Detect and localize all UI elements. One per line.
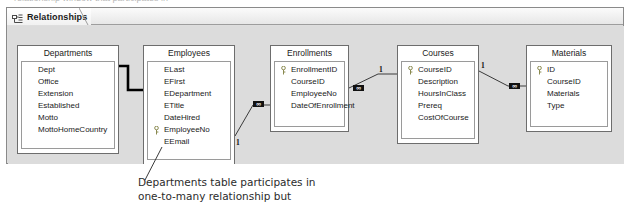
field-label: MottoHomeCountry bbox=[38, 125, 107, 134]
connector-employees-enrollments bbox=[235, 105, 270, 136]
field-label: Materials bbox=[547, 89, 579, 98]
field-label: EFirst bbox=[164, 77, 185, 86]
field-row[interactable]: Materials bbox=[531, 88, 607, 100]
connector-departments-employees bbox=[119, 66, 146, 90]
field-row[interactable]: DateHired bbox=[148, 112, 230, 124]
field-label: ELast bbox=[164, 65, 184, 74]
field-label: CourseID bbox=[291, 77, 325, 86]
table-fields-enrollments: EnrollmentID CourseID EmployeeNo DateOfE… bbox=[274, 61, 345, 127]
field-label: ID bbox=[547, 65, 555, 74]
cardinality-enrollments-many: ∞ bbox=[253, 101, 264, 107]
tab-slant-edge bbox=[79, 8, 91, 25]
table-fields-departments: Dept Office Extension Established Motto … bbox=[21, 61, 115, 149]
field-label: HoursInClass bbox=[418, 89, 466, 98]
field-row[interactable]: HoursInClass bbox=[402, 88, 474, 100]
field-label: EmployeeNo bbox=[164, 125, 210, 134]
field-row[interactable]: EFirst bbox=[148, 76, 230, 88]
tab-relationships[interactable]: Relationships bbox=[7, 8, 91, 25]
table-box-materials[interactable]: Materials ID CourseID Mat bbox=[526, 45, 612, 132]
field-label: DateOfEnrollment bbox=[291, 101, 355, 110]
field-label: ETitle bbox=[164, 101, 184, 110]
field-row[interactable]: EDepartment bbox=[148, 88, 230, 100]
cardinality-courses-one: 1 bbox=[379, 66, 383, 74]
field-row[interactable]: Office bbox=[22, 76, 114, 88]
field-label: EmployeeNo bbox=[291, 89, 337, 98]
table-fields-courses: CourseID Description HoursInClass Prereq… bbox=[401, 61, 475, 139]
field-row[interactable]: MottoHomeCountry bbox=[22, 124, 114, 136]
field-row[interactable]: CourseID bbox=[275, 76, 344, 88]
field-row[interactable]: DateOfEnrollment bbox=[275, 100, 344, 112]
cardinality-enrollments-many-2: ∞ bbox=[353, 85, 364, 91]
field-row[interactable]: Established bbox=[22, 100, 114, 112]
field-row[interactable]: Prereq bbox=[402, 100, 474, 112]
table-title-departments: Departments bbox=[18, 46, 118, 60]
table-title-materials: Materials bbox=[527, 46, 611, 60]
relationship-canvas[interactable]: 1 ∞ ∞ 1 1 ∞ Departments Dept Office Exte… bbox=[8, 26, 624, 164]
field-row[interactable]: Type bbox=[531, 100, 607, 112]
field-label: Prereq bbox=[418, 101, 442, 110]
top-cut-text-strip: relationship window that participates in bbox=[0, 0, 630, 6]
field-row[interactable]: CourseID bbox=[531, 76, 607, 88]
field-label: Dept bbox=[38, 65, 55, 74]
field-label: Extension bbox=[38, 89, 73, 98]
field-label: Type bbox=[547, 101, 564, 110]
table-box-enrollments[interactable]: Enrollments EnrollmentID CourseID bbox=[270, 45, 349, 132]
tab-strip: Relationships bbox=[7, 8, 623, 25]
cardinality-courses-one-2: 1 bbox=[481, 62, 485, 70]
field-label: Established bbox=[38, 101, 79, 110]
field-row-primary-key[interactable]: CourseID bbox=[402, 64, 474, 76]
relationships-window: Relationships 1 ∞ ∞ 1 1 ∞ bbox=[6, 7, 624, 164]
cardinality-employees-one: 1 bbox=[236, 139, 240, 147]
field-label: EnrollmentID bbox=[291, 65, 337, 74]
field-label: CourseID bbox=[418, 65, 452, 74]
primary-key-icon bbox=[153, 126, 160, 135]
table-box-departments[interactable]: Departments Dept Office Extension Establ… bbox=[17, 45, 119, 154]
field-row[interactable]: ELast bbox=[148, 64, 230, 76]
table-title-enrollments: Enrollments bbox=[271, 46, 348, 60]
primary-key-icon bbox=[407, 66, 414, 75]
field-label: Motto bbox=[38, 113, 58, 122]
field-label: Description bbox=[418, 77, 458, 86]
field-row[interactable]: Description bbox=[402, 76, 474, 88]
field-row[interactable]: EmployeeNo bbox=[275, 88, 344, 100]
primary-key-icon bbox=[536, 66, 543, 75]
field-row-primary-key[interactable]: EnrollmentID bbox=[275, 64, 344, 76]
table-fields-materials: ID CourseID Materials Type bbox=[530, 61, 608, 127]
annotation-line-1: Departments table participates in bbox=[138, 175, 368, 189]
primary-key-icon bbox=[280, 66, 287, 75]
field-row[interactable]: Dept bbox=[22, 64, 114, 76]
cardinality-materials-many: ∞ bbox=[509, 83, 520, 89]
annotation-line-2: one-to-many relationship but bbox=[138, 189, 368, 203]
field-row[interactable]: CostOfCourse bbox=[402, 112, 474, 124]
relationships-icon bbox=[12, 11, 23, 22]
field-label: DateHired bbox=[164, 113, 200, 122]
top-cut-text: relationship window that participates in bbox=[14, 0, 168, 3]
field-row[interactable]: Extension bbox=[22, 88, 114, 100]
table-box-courses[interactable]: Courses CourseID Description bbox=[397, 45, 479, 144]
field-label: CourseID bbox=[547, 77, 581, 86]
annotation-callout: Departments table participates in one-to… bbox=[138, 175, 368, 203]
table-title-employees: Employees bbox=[144, 46, 234, 60]
field-row-primary-key[interactable]: ID bbox=[531, 64, 607, 76]
field-label: Office bbox=[38, 77, 59, 86]
field-row-primary-key[interactable]: EmployeeNo bbox=[148, 124, 230, 136]
field-row[interactable]: Motto bbox=[22, 112, 114, 124]
field-label: CostOfCourse bbox=[418, 113, 469, 122]
table-title-courses: Courses bbox=[398, 46, 478, 60]
field-label: EDepartment bbox=[164, 89, 211, 98]
field-row[interactable]: ETitle bbox=[148, 100, 230, 112]
